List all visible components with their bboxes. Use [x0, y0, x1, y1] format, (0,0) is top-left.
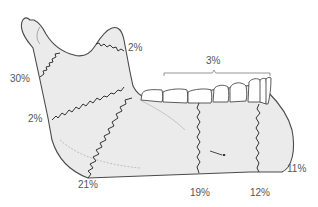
label-angle: 21%	[78, 180, 98, 190]
mandible-illustration	[0, 0, 318, 207]
label-alveolar: 3%	[206, 56, 220, 66]
alveolar-bracket	[164, 70, 270, 76]
label-condyle: 30%	[10, 74, 30, 84]
mandible-fracture-diagram: 30% 2% 2% 21% 3% 19% 12% 11%	[0, 0, 318, 207]
label-body: 19%	[190, 188, 210, 198]
label-parasymphysis: 12%	[250, 188, 270, 198]
teeth	[141, 77, 271, 104]
label-ramus: 2%	[28, 114, 42, 124]
label-symphysis: 11%	[287, 164, 306, 174]
mental-foramen-dot	[223, 154, 226, 156]
label-coronoid: 2%	[128, 43, 142, 53]
